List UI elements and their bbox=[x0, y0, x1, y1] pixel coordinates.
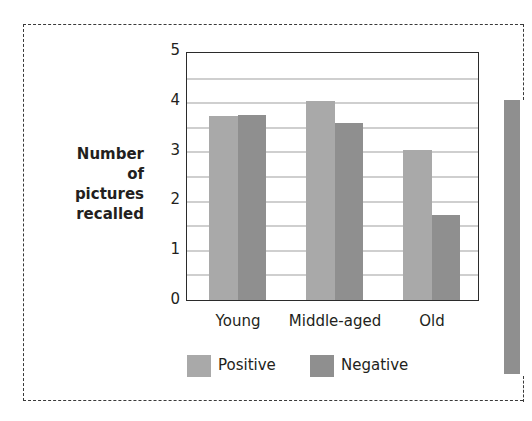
y-tick-label: 3 bbox=[160, 142, 180, 158]
legend-swatch-negative bbox=[310, 355, 334, 377]
y-tick-label: 5 bbox=[160, 42, 180, 58]
bar-middle-aged-negative bbox=[335, 123, 363, 300]
legend-label-positive: Positive bbox=[218, 356, 276, 374]
bar-old-positive bbox=[403, 150, 432, 300]
legend-swatch-positive bbox=[187, 355, 211, 377]
bar-middle-aged-positive bbox=[306, 101, 335, 300]
side-strip-bar bbox=[504, 100, 520, 374]
bar-young-positive bbox=[209, 116, 238, 300]
x-tick-label: Old bbox=[372, 312, 492, 330]
y-axis-label-line-2: of pictures bbox=[60, 164, 144, 204]
bar-young-negative bbox=[238, 115, 266, 300]
gridline bbox=[187, 78, 478, 80]
dashed-frame-right-edge bbox=[523, 24, 524, 100]
legend-label-negative: Negative bbox=[341, 356, 408, 374]
y-tick-label: 2 bbox=[160, 191, 180, 207]
dashed-frame-right-edge-lower bbox=[523, 376, 524, 402]
y-axis-label-line-1: Number bbox=[60, 144, 144, 164]
y-axis-label: Number of pictures recalled bbox=[60, 144, 144, 224]
y-tick-label: 1 bbox=[160, 241, 180, 257]
bar-old-negative bbox=[432, 215, 460, 300]
y-axis-label-line-3: recalled bbox=[60, 204, 144, 224]
y-tick-label: 4 bbox=[160, 92, 180, 108]
y-tick-label: 0 bbox=[160, 291, 180, 307]
plot-area bbox=[186, 52, 479, 301]
